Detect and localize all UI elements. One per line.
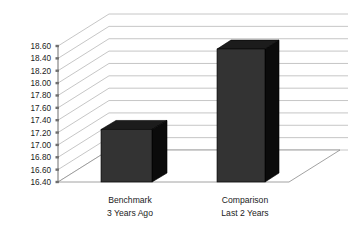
category-label-line1: Comparison [222,195,269,205]
y-axis-tick [56,57,59,59]
floor-plane [58,150,340,182]
category-label-line2: Last 2 Years [221,208,268,218]
gridline [58,63,348,95]
y-axis-tick [56,70,59,72]
category-label-benchmark: Benchmark 3 Years Ago [107,195,153,218]
y-axis-tick-label: 18.20 [31,67,52,76]
bar-front-face [101,129,152,182]
y-axis-tick [56,168,59,170]
y-axis-tick [56,82,59,84]
gridline [58,101,348,133]
y-axis-tick [56,181,59,183]
y-axis-tick-label: 17.00 [31,141,52,150]
bar-side-face [265,40,279,182]
chart-floor [58,150,340,182]
y-axis-tick-label: 16.80 [31,153,52,162]
gridline [58,51,348,83]
category-label-comparison: Comparison Last 2 Years [221,195,268,218]
gridline [58,76,348,108]
bar-benchmark-3-years-ago [101,120,167,182]
y-axis-label-group: 18.6018.4018.2018.0017.8017.6017.4017.20… [31,42,52,187]
bar-comparison-last-2-years [217,40,279,182]
gridline [58,39,348,71]
y-axis-tick [56,45,59,47]
y-axis-tick-label: 16.40 [31,178,52,187]
bar-front-face [217,49,265,182]
y-axis-tick-label: 17.40 [31,116,52,125]
category-label-line2: 3 Years Ago [107,208,153,218]
y-axis-tick-label: 17.80 [31,91,52,100]
y-axis-tick-label: 18.40 [31,54,52,63]
y-axis-tick [56,94,59,96]
y-axis-tick [56,107,59,109]
bar-chart: 18.6018.4018.2018.0017.8017.6017.4017.20… [0,0,348,232]
y-axis-tick-label: 17.20 [31,129,52,138]
chart-canvas: 18.6018.4018.2018.0017.8017.6017.4017.20… [0,0,348,232]
y-axis-tick [56,144,59,146]
gridline [58,14,348,46]
gridline [58,26,348,58]
y-axis [56,45,59,183]
gridline [58,88,348,120]
y-axis-tick-label: 16.60 [31,166,52,175]
x-axis-category-labels: Benchmark 3 Years Ago Comparison Last 2 … [107,195,269,218]
y-axis-tick-label: 18.60 [31,42,52,51]
y-axis-tick [56,131,59,133]
y-axis-tick [56,119,59,121]
y-axis-tick-label: 18.00 [31,79,52,88]
y-axis-tick [56,156,59,158]
bar-side-face [152,120,167,182]
y-axis-tick-label: 17.60 [31,104,52,113]
category-label-line1: Benchmark [108,195,152,205]
